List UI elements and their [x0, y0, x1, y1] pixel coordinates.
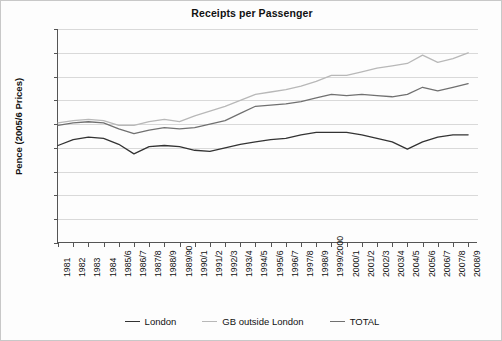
- x-tick-mark: [438, 243, 439, 247]
- x-tick-mark: [377, 243, 378, 247]
- x-tick-mark: [119, 243, 120, 247]
- series-line-gb-outside-london: [58, 53, 468, 126]
- legend-swatch-icon: [202, 321, 217, 322]
- legend-swatch-icon: [330, 321, 345, 322]
- x-tick-label: 2008/9: [472, 250, 482, 277]
- legend-item-total[interactable]: TOTAL: [330, 316, 380, 327]
- x-tick-label: 1981: [62, 258, 72, 277]
- x-tick-mark: [210, 243, 211, 247]
- x-tick-mark: [134, 243, 135, 247]
- x-tick-label: 1993/4: [244, 250, 254, 277]
- x-tick-mark: [104, 243, 105, 247]
- x-tick-mark: [407, 243, 408, 247]
- x-tick-label: 1992/3: [229, 250, 239, 277]
- legend-label: London: [145, 316, 177, 327]
- x-tick-mark: [271, 243, 272, 247]
- x-tick-label: 1983: [92, 258, 102, 277]
- x-tick-label: 1998/9: [320, 250, 330, 277]
- x-tick-mark: [362, 243, 363, 247]
- x-tick-label: 2001/2: [366, 250, 376, 277]
- x-tick-mark: [347, 243, 348, 247]
- chart-figure: Receipts per Passenger Pence (2005/6 Pri…: [0, 0, 502, 341]
- x-tick-mark: [88, 243, 89, 247]
- legend-label: TOTAL: [350, 316, 380, 327]
- x-tick-mark: [453, 243, 454, 247]
- legend-item-london[interactable]: London: [125, 316, 177, 327]
- x-tick-mark: [225, 243, 226, 247]
- x-tick-label: 2006/7: [442, 250, 452, 277]
- x-tick-mark: [58, 243, 59, 247]
- x-tick-label: 1987/8: [153, 250, 163, 277]
- x-tick-label: 1985/6: [123, 250, 133, 277]
- x-tick-label: 2000/1: [351, 250, 361, 277]
- x-tick-label: 1984: [108, 258, 118, 277]
- x-tick-mark: [255, 243, 256, 247]
- x-tick-label: 1996/7: [290, 250, 300, 277]
- x-tick-label: 2004/5: [411, 250, 421, 277]
- plot-area: 9080706050403020100 19811982198319841985…: [57, 29, 477, 243]
- x-tick-label: 1989/90: [184, 246, 194, 277]
- x-tick-label: 1991/2: [214, 250, 224, 277]
- series-line-total: [58, 84, 468, 134]
- x-tick-mark: [149, 243, 150, 247]
- x-tick-mark: [240, 243, 241, 247]
- x-tick-mark: [468, 243, 469, 247]
- x-tick-mark: [195, 243, 196, 247]
- x-tick-mark: [73, 243, 74, 247]
- x-tick-label: 1995/6: [275, 250, 285, 277]
- x-tick-mark: [392, 243, 393, 247]
- x-tick-mark: [301, 243, 302, 247]
- chart-title: Receipts per Passenger: [1, 7, 502, 19]
- x-tick-mark: [331, 243, 332, 247]
- x-tick-label: 2002/3: [381, 250, 391, 277]
- legend-swatch-icon: [125, 321, 140, 322]
- x-tick-mark: [164, 243, 165, 247]
- x-tick-label: 1990/1: [199, 250, 209, 277]
- series-lines: [58, 29, 478, 243]
- x-tick-label: 1982: [77, 258, 87, 277]
- x-tick-mark: [423, 243, 424, 247]
- chart-legend: LondonGB outside LondonTOTAL: [1, 316, 502, 327]
- x-tick-label: 2005/6: [427, 250, 437, 277]
- x-tick-mark: [316, 243, 317, 247]
- x-tick-label: 2007/8: [457, 250, 467, 277]
- x-tick-mark: [180, 243, 181, 247]
- legend-label: GB outside London: [222, 316, 303, 327]
- x-tick-label: 1994/5: [259, 250, 269, 277]
- x-tick-label: 1988/9: [168, 250, 178, 277]
- x-tick-label: 1997/8: [305, 250, 315, 277]
- x-tick-label: 1986/7: [138, 250, 148, 277]
- x-tick-mark: [286, 243, 287, 247]
- legend-item-gb-outside-london[interactable]: GB outside London: [202, 316, 303, 327]
- series-line-london: [58, 132, 468, 153]
- y-axis-label: Pence (2005/6 Prices): [13, 47, 24, 207]
- x-tick-label: 2003/4: [396, 250, 406, 277]
